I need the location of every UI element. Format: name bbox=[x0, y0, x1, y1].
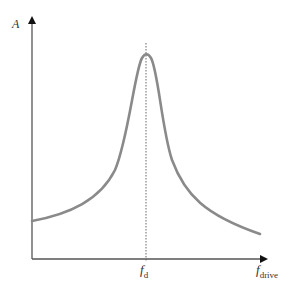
resonance-plot bbox=[0, 0, 289, 298]
amplitude-curve bbox=[32, 54, 260, 234]
x-axis-label: fdrive bbox=[256, 262, 278, 280]
y-axis-label: A bbox=[12, 17, 19, 32]
x-tick-label-fd: fd bbox=[140, 262, 148, 280]
